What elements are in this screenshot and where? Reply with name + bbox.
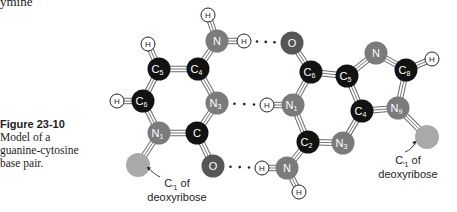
svg-text:H: H: [241, 37, 247, 46]
svg-text:deoxyribose: deoxyribose: [378, 168, 437, 180]
svg-text:C: C: [193, 127, 201, 139]
atom-h: H: [237, 34, 251, 48]
hydrogen-bond-dots: [233, 102, 255, 105]
hydrogen-bond-dots: [256, 40, 276, 43]
svg-text:N: N: [372, 47, 380, 59]
atom-c4: C4: [187, 58, 210, 81]
atom-c4: C4: [351, 100, 374, 123]
atom-h: H: [201, 8, 215, 22]
atom-o: O: [202, 155, 225, 178]
atom-h: H: [141, 37, 155, 51]
sugar-label: C′1 ofdeoxyribose: [147, 167, 207, 203]
atom-n3: N3: [206, 92, 229, 115]
atom-n3: N3: [332, 132, 355, 155]
sugar-c1-atom: [126, 153, 150, 177]
svg-text:N: N: [213, 35, 221, 47]
svg-text:C′1 of: C′1 of: [395, 154, 421, 168]
atom-h: H: [255, 161, 269, 175]
sugar-c1-atom: [415, 125, 439, 149]
atom-h: H: [260, 98, 274, 112]
svg-text:O: O: [209, 160, 218, 172]
atom-n1: N1: [148, 122, 171, 145]
atom-h: H: [425, 52, 439, 66]
atom-o: O: [281, 32, 304, 55]
svg-text:H: H: [429, 55, 435, 64]
atom-c8: C8: [395, 59, 418, 82]
atom-h: H: [292, 185, 306, 199]
atom-c: C: [186, 122, 209, 145]
atom-c6: C6: [300, 61, 323, 84]
svg-text:H: H: [296, 188, 302, 197]
atom-c2: C2: [297, 131, 320, 154]
svg-text:deoxyribose: deoxyribose: [147, 191, 206, 203]
atom-n: N: [276, 157, 299, 180]
atom-n9: N9: [387, 97, 410, 120]
svg-text:H: H: [114, 97, 120, 106]
svg-text:H: H: [259, 164, 265, 173]
svg-text:C′1 of: C′1 of: [164, 177, 190, 191]
atom-n: N: [365, 42, 388, 65]
guanine-cytosine-base-pair-diagram: HNHHC5C4HC6N3N1COOC6C5NC8HHN1C4N9C2N3HNH…: [0, 0, 457, 212]
svg-text:H: H: [264, 101, 270, 110]
atom-c6: C6: [132, 90, 155, 113]
svg-text:H: H: [205, 11, 211, 20]
atom-h: H: [110, 94, 124, 108]
hydrogen-bond-dots: [229, 165, 250, 168]
svg-text:H: H: [145, 40, 151, 49]
atom-n: N: [206, 30, 229, 53]
atom-n1: N1: [282, 94, 305, 117]
atom-c5: C5: [336, 65, 359, 88]
svg-text:O: O: [288, 37, 297, 49]
atom-c5: C5: [148, 58, 171, 81]
svg-text:N: N: [283, 162, 291, 174]
